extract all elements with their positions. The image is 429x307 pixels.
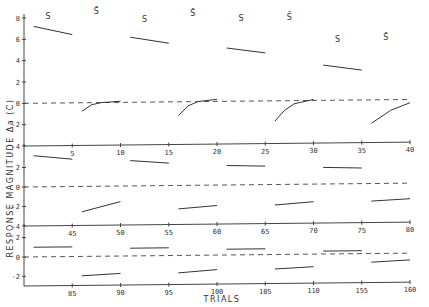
data-series — [34, 26, 410, 275]
series-line — [275, 267, 314, 269]
x-tick-label: 25 — [261, 148, 269, 156]
series-line — [130, 37, 169, 43]
stimulus-marker: S — [142, 15, 147, 24]
y-tick-label: -2 — [12, 273, 20, 281]
x-tick-label: 80 — [406, 226, 414, 234]
x-tick-label: 90 — [116, 289, 124, 297]
x-tick-label: 5 — [70, 150, 74, 158]
series-line — [371, 260, 410, 262]
x-tick-label: 65 — [261, 228, 269, 236]
x-axis-title: TRIALS — [203, 295, 241, 304]
x-tick-label: 10 — [116, 149, 124, 157]
y-tick-label: 2 — [16, 79, 20, 87]
y-tick-label: 0 — [16, 184, 20, 192]
x-tick-label: 35 — [358, 147, 366, 155]
x-tick-label: 155 — [355, 287, 368, 295]
x-tick-label: 20 — [213, 148, 221, 156]
series-line — [227, 166, 266, 167]
x-tick-label: 85 — [68, 290, 76, 298]
y-tick-label: 0 — [16, 100, 20, 108]
stimulus-marker: S̄ — [287, 11, 292, 21]
x-tick-label: 105 — [259, 288, 272, 296]
x-tick-label: 30 — [309, 147, 317, 155]
series-line — [130, 161, 169, 164]
series-line — [275, 99, 314, 121]
x-tick-label: 45 — [68, 230, 76, 238]
series-line — [82, 202, 121, 212]
series-line — [34, 26, 73, 34]
y-tick-label: 0 — [16, 254, 20, 262]
y-tick-label: 2 — [16, 234, 20, 242]
tick-labels: 86420-2-4510152025303540SS̄SS̄SS̄SS̄20-2… — [0, 6, 416, 298]
series-line — [323, 65, 362, 70]
stimulus-marker: S̄ — [94, 6, 99, 16]
x-tick-label: 75 — [358, 227, 366, 235]
x-tick-label: 70 — [309, 227, 317, 235]
series-line — [371, 199, 410, 201]
series-line — [227, 48, 266, 53]
x-tick-label: 15 — [165, 149, 173, 157]
series-line — [275, 202, 314, 205]
y-tick-label: 2 — [16, 164, 20, 172]
y-tick-label: 4 — [16, 57, 20, 65]
x-tick-label: 110 — [307, 287, 320, 295]
x-tick-label: 160 — [404, 286, 417, 294]
figure: 86420-2-4510152025303540SS̄SS̄SS̄SS̄20-2… — [0, 0, 429, 307]
series-line — [82, 273, 121, 275]
y-tick-label: 8 — [16, 15, 20, 23]
x-tick-label: 60 — [213, 228, 221, 236]
series-line — [371, 103, 410, 124]
stimulus-marker: S — [335, 35, 340, 44]
series-line — [323, 167, 362, 168]
x-tick-label: 55 — [165, 229, 173, 237]
stimulus-marker: S — [239, 14, 244, 23]
y-tick-label: 6 — [16, 36, 20, 44]
series-line — [178, 99, 217, 115]
x-tick-label: 95 — [165, 289, 173, 297]
x-tick-label: 50 — [116, 229, 124, 237]
stimulus-marker: S — [46, 12, 51, 21]
stimulus-marker: S̄ — [190, 8, 195, 18]
series-line — [34, 156, 73, 160]
y-axis-title: RESPONSE MAGNITUDE Δa (C) — [6, 99, 15, 258]
stimulus-marker: S̄ — [383, 32, 388, 42]
series-line — [178, 206, 217, 209]
series-line — [178, 270, 217, 273]
x-tick-label: 40 — [406, 146, 414, 154]
